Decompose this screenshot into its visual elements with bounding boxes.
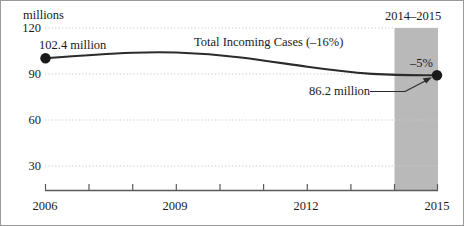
x-tick-label-2012: 2012 bbox=[283, 200, 329, 213]
y-axis-unit-label: millions bbox=[23, 9, 64, 22]
data-point-marker-2006 bbox=[40, 53, 50, 63]
highlight-band-label: 2014–2015 bbox=[385, 10, 441, 23]
start-value-annotation: 102.4 million bbox=[39, 39, 106, 52]
end-value-annotation: 86.2 million bbox=[309, 85, 370, 98]
y-tick-label-60: 60 bbox=[15, 114, 41, 127]
data-point-marker-2015 bbox=[432, 70, 442, 80]
series-title-annotation: Total Incoming Cases (–16%) bbox=[194, 36, 343, 49]
x-tick-label-2009: 2009 bbox=[152, 200, 198, 213]
x-axis-ticks bbox=[46, 184, 438, 190]
x-tick-label-2015: 2015 bbox=[414, 200, 460, 213]
y-tick-label-30: 30 bbox=[15, 160, 41, 173]
series-line-total-incoming-cases bbox=[45, 52, 437, 75]
chart-figure: millions 120 90 60 30 2006 2009 2012 201… bbox=[0, 0, 464, 226]
pct-change-annotation: –5% bbox=[410, 57, 433, 70]
y-tick-label-90: 90 bbox=[15, 68, 41, 81]
y-tick-label-120: 120 bbox=[15, 22, 41, 35]
x-tick-label-2006: 2006 bbox=[22, 200, 68, 213]
